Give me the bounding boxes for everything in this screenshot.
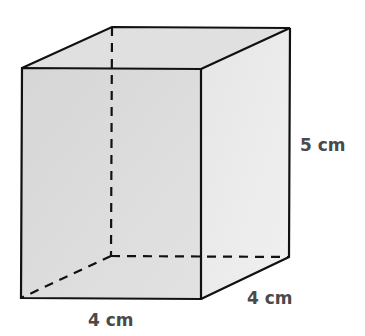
front-face bbox=[21, 68, 201, 299]
right-face bbox=[201, 28, 290, 299]
prism-diagram: 5 cm 4 cm 4 cm bbox=[0, 0, 365, 336]
depth-label: 4 cm bbox=[247, 288, 293, 308]
height-label: 5 cm bbox=[300, 135, 346, 155]
width-label: 4 cm bbox=[88, 310, 134, 330]
hidden-edge-vertical bbox=[111, 27, 112, 256]
